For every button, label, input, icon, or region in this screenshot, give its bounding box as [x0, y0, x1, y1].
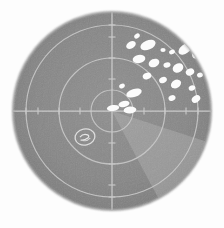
radar-scope-canvas[interactable]	[0, 0, 224, 228]
radar-scope-display	[0, 0, 224, 228]
